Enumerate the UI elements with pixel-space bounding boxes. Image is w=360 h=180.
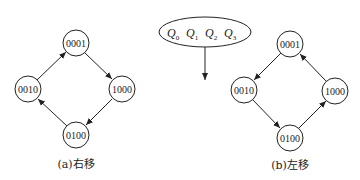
caption-a: (a)右移 — [57, 157, 94, 171]
caption-b: (b)左移 — [271, 159, 309, 172]
edge-arrow-icon — [86, 99, 112, 125]
svg-text:1000: 1000 — [112, 84, 132, 95]
svg-text:0010: 0010 — [18, 84, 38, 95]
state-node-right: 1000 — [109, 76, 135, 102]
diagram-a-right-shift: 0001 1000 0100 0010 (a)右移 — [15, 30, 135, 171]
edge-arrow-icon — [253, 100, 280, 128]
edge-arrow-icon — [85, 53, 112, 79]
q0-label: Q0 — [167, 26, 180, 42]
state-node-left: 0010 — [231, 77, 257, 103]
state-node-bottom: 0100 — [277, 125, 303, 151]
q3-label: Q3 — [224, 26, 237, 42]
state-node-top: 0001 — [63, 30, 89, 56]
state-node-bottom: 0100 — [63, 122, 89, 148]
edge-arrow-icon — [38, 99, 67, 126]
diagram-b-left-shift: 0001 0010 0100 1000 (b)左移 — [231, 31, 348, 172]
svg-text:0001: 0001 — [280, 39, 300, 50]
edge-arrow-icon — [37, 52, 66, 80]
edge-arrow-icon — [300, 54, 326, 81]
svg-text:0100: 0100 — [66, 130, 86, 141]
q1-label: Q1 — [186, 26, 199, 42]
q2-label: Q2 — [205, 26, 218, 42]
svg-text:0100: 0100 — [280, 133, 300, 144]
state-node-left: 0010 — [15, 76, 41, 102]
svg-text:0010: 0010 — [234, 85, 254, 96]
register-ellipse: Q0 Q1 Q2 Q3 — [159, 17, 251, 47]
svg-text:0001: 0001 — [66, 38, 86, 49]
shift-register-state-diagram: Q0 Q1 Q2 Q3 0001 1000 0100 0010 (a)右移 — [0, 0, 360, 180]
edge-arrow-icon — [299, 101, 326, 128]
state-node-top: 0001 — [277, 31, 303, 57]
edge-arrow-icon — [254, 53, 281, 80]
state-node-right: 1000 — [322, 78, 348, 104]
svg-text:1000: 1000 — [325, 86, 345, 97]
